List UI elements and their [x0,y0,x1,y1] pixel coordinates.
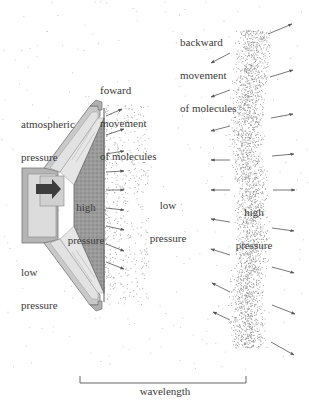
label-speaker-high-pressure: high pressure [64,180,108,268]
label-wavelength: wavelength [120,386,210,397]
label-forward-movement: foward movement of molecules [100,63,157,184]
label-backward-movement: backward movement of molecules [180,15,237,136]
label-speaker-low-pressure: low pressure [21,245,58,333]
label-atmospheric-pressure: atmospheric pressure [21,97,75,185]
wavelength-bracket [80,376,246,383]
label-band-high-pressure: high pressure [229,185,279,273]
sound-wave-diagram: foward movement of molecules backward mo… [0,0,309,400]
label-low-pressure: low pressure [142,178,194,266]
